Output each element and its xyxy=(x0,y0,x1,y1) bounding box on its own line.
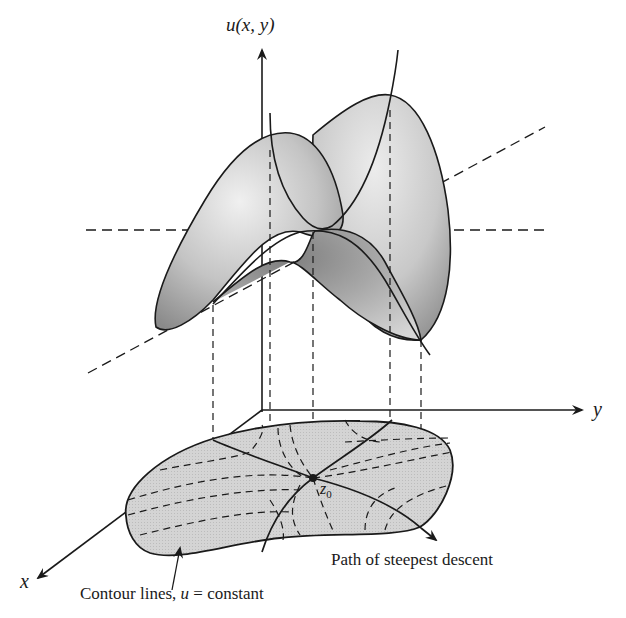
y-axis-label: y xyxy=(593,398,602,421)
path-arrow xyxy=(421,528,436,540)
z-subscript: 0 xyxy=(326,488,332,500)
saddle-point-z0 xyxy=(309,474,317,482)
contour-variable: u xyxy=(181,584,190,603)
saddle-point-label: z0 xyxy=(320,480,332,500)
contour-lines-annotation: Contour lines, u = constant xyxy=(80,584,264,604)
x-axis-label: x xyxy=(20,570,29,593)
saddle-point-diagram xyxy=(0,0,626,618)
steepest-descent-annotation: Path of steepest descent xyxy=(331,550,493,570)
saddle-surface xyxy=(155,50,450,355)
base-region-outline xyxy=(126,421,453,556)
u-axis-label: u(x, y) xyxy=(226,14,275,36)
u-func-name: u xyxy=(226,14,236,35)
contour-text-prefix: Contour lines, xyxy=(80,584,181,603)
u-func-args: (x, y) xyxy=(236,14,275,35)
contour-text-suffix: = constant xyxy=(189,584,264,603)
